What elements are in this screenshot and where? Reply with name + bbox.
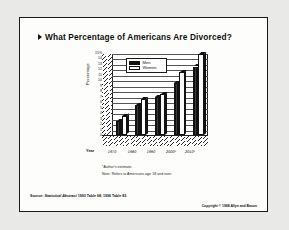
x-tick-label: 1970 xyxy=(107,150,116,154)
bar-face xyxy=(141,99,146,135)
bar-group xyxy=(174,53,185,135)
bar-women-1980 xyxy=(141,99,146,135)
legend-label-men: Men xyxy=(143,61,151,65)
bar-side xyxy=(146,97,148,134)
slide-title: What Percentage of Americans Are Divorce… xyxy=(38,32,232,42)
chart-notes: *Author's estimate.Note: Refers to Ameri… xyxy=(102,165,172,176)
x-tick-label: 1990 xyxy=(146,150,155,154)
bar-side xyxy=(204,52,206,135)
x-axis-label: Year xyxy=(86,148,94,153)
source-detail: 1993 Table 68; 1996 Table 83. xyxy=(77,194,127,198)
bar-top xyxy=(179,70,187,72)
y-tick-label: 15% xyxy=(95,52,102,56)
bar-face xyxy=(122,116,127,135)
bar-side xyxy=(184,70,186,135)
chart-legend: Men Women xyxy=(126,58,167,73)
source-prefix: Source: xyxy=(30,194,44,198)
bar-side xyxy=(165,92,167,135)
legend-item-women: Women xyxy=(129,66,164,70)
page-title: What Percentage of Americans Are Divorce… xyxy=(45,32,232,42)
legend-swatch-women xyxy=(129,66,140,70)
source-line: Source: Statistical Abstract 1993 Table … xyxy=(30,194,127,198)
bar-women-2010 xyxy=(198,54,203,135)
legend-swatch-men xyxy=(129,61,140,65)
copyright-line: Copyright © 1998 Allyn and Bacon xyxy=(202,204,257,208)
bar-women-1970 xyxy=(122,116,127,135)
chart-note: Note: Refers to Americans age 18 and ove… xyxy=(102,172,172,176)
bar-chart: Percentage 15%14131211109876543210 Men W… xyxy=(86,54,208,158)
chart-note: *Author's estimate. xyxy=(102,165,172,169)
bar-face xyxy=(160,94,165,135)
bar-group xyxy=(193,53,204,135)
bar-face xyxy=(179,72,184,135)
bar-side xyxy=(127,114,129,135)
x-tick-label: 1980 xyxy=(127,150,136,154)
legend-label-women: Women xyxy=(143,66,157,70)
x-tick-label: 2010* xyxy=(185,150,196,154)
bar-face xyxy=(198,54,203,135)
chart-floor xyxy=(102,135,208,146)
y-axis-ticks: 15%14131211109876543210 xyxy=(90,54,102,142)
legend-item-men: Men xyxy=(129,61,164,65)
bar-women-2000 xyxy=(179,72,184,135)
plot-area: Men Women xyxy=(102,54,208,146)
x-tick-label: 2000* xyxy=(165,150,176,154)
bar-top xyxy=(160,92,168,94)
slide-canvas: What Percentage of Americans Are Divorce… xyxy=(19,17,268,212)
bar-women-1990 xyxy=(160,94,165,135)
triangle-right-icon xyxy=(38,34,42,40)
x-axis: Year 1970198019902000*2010* xyxy=(86,147,208,156)
source-publication: Statistical Abstract xyxy=(44,194,76,198)
